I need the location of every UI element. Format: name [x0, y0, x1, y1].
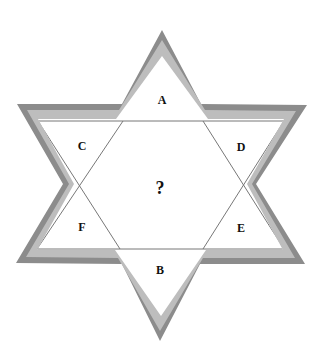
region-label-b: B — [156, 264, 164, 276]
region-label-c: C — [78, 140, 87, 152]
region-label-e: E — [237, 222, 245, 234]
region-label-f: F — [78, 221, 85, 233]
region-label-a: A — [158, 94, 167, 106]
center-question-mark: ? — [156, 179, 165, 197]
region-label-d: D — [237, 141, 246, 153]
